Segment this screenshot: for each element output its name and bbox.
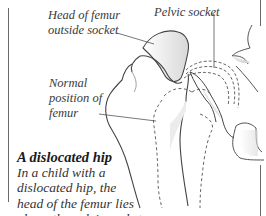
caption-line: dislocated hip, the (17, 180, 257, 195)
pelvis-bone (232, 25, 264, 160)
caption-title: A dislocated hip (17, 149, 257, 165)
label-normal-line2: position of (49, 91, 102, 106)
caption-line: head of the femur lies (17, 196, 257, 211)
leader-head-of-femur (117, 33, 154, 44)
caption-body: In a child with a dislocated hip, the he… (17, 165, 257, 216)
label-head-line1: Head of femur (48, 8, 116, 23)
caption-line: above the pelvic socket (17, 211, 257, 216)
caption-line: In a child with a (17, 165, 257, 180)
label-normal-line3: femur (49, 106, 102, 121)
label-normal-line1: Normal (49, 76, 102, 91)
pelvic-socket-outline (184, 61, 239, 108)
label-pelvic-socket: Pelvic socket (154, 5, 220, 20)
label-head-of-femur: Head of femur outside socket (48, 8, 116, 38)
leader-pelvic-socket (211, 14, 214, 68)
label-head-line2: outside socket (48, 23, 116, 38)
dislocated-hip-figure: Head of femur outside socket Pelvic sock… (0, 0, 266, 216)
femur-head-displaced (131, 31, 188, 83)
caption: A dislocated hip In a child with a dislo… (17, 149, 257, 216)
acetabulum (190, 72, 234, 138)
label-normal-position: Normal position of femur (49, 76, 102, 121)
